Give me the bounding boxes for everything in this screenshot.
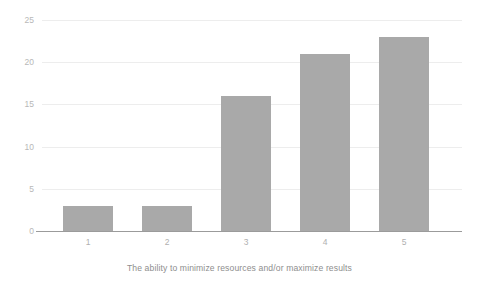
bar-category-1 <box>63 206 113 231</box>
bar-category-3 <box>221 96 271 231</box>
bar-holder-2 <box>142 0 192 231</box>
x-axis-line <box>36 231 462 232</box>
bar-category-4 <box>300 54 350 231</box>
x-axis-tick-3: 3 <box>244 238 249 247</box>
bar-holder-4 <box>300 0 350 231</box>
bar-category-2 <box>142 206 192 231</box>
x-axis-tick-2: 2 <box>165 238 170 247</box>
x-axis-tick-1: 1 <box>86 238 91 247</box>
bar-holder-1 <box>63 0 113 231</box>
bar-chart: 25 20 15 10 5 0 1 2 3 4 5 The ability t <box>0 0 479 281</box>
bar-holder-5 <box>379 0 429 231</box>
bar-category-5 <box>379 37 429 231</box>
x-axis-label: The ability to minimize resources and/or… <box>0 263 479 273</box>
x-axis-tick-4: 4 <box>323 238 328 247</box>
bar-holder-3 <box>221 0 271 231</box>
x-axis-tick-5: 5 <box>402 238 407 247</box>
bars-layer <box>0 0 479 231</box>
